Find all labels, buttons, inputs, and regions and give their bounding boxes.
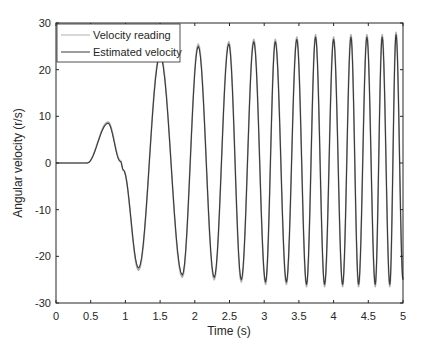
x-tick-label: 4.5 <box>361 310 376 322</box>
y-tick-label: 10 <box>39 110 51 122</box>
series-estimated-velocity <box>56 35 403 285</box>
legend-label-estimated-velocity: Estimated velocity <box>93 46 182 58</box>
x-tick-label: 0 <box>53 310 59 322</box>
line-chart: 00.511.522.533.544.55 3020100-10-20-30 T… <box>0 0 423 355</box>
y-tick-label: -10 <box>35 204 51 216</box>
x-tick-label: 0.5 <box>83 310 98 322</box>
x-tick-label: 2 <box>192 310 198 322</box>
x-tick-label: 4 <box>331 310 337 322</box>
series-velocity-reading <box>56 32 403 286</box>
x-tick-label: 1 <box>122 310 128 322</box>
legend-label-velocity-reading: Velocity reading <box>93 29 171 41</box>
x-tick-label: 1.5 <box>152 310 167 322</box>
y-tick-label: 20 <box>39 64 51 76</box>
y-tick-label: 30 <box>39 17 51 29</box>
x-tick-label: 5 <box>400 310 406 322</box>
legend: Velocity reading Estimated velocity <box>57 24 182 62</box>
y-tick-label: 0 <box>45 157 51 169</box>
y-tick-label: -30 <box>35 297 51 309</box>
y-tick-label: -20 <box>35 250 51 262</box>
x-tick-label: 3 <box>261 310 267 322</box>
series-layer <box>56 32 403 286</box>
plot-area-frame <box>56 23 403 303</box>
x-tick-label: 2.5 <box>222 310 237 322</box>
x-tick-label: 3.5 <box>291 310 306 322</box>
x-axis-label: Time (s) <box>207 324 251 338</box>
y-axis-label: Angular velocity (r/s) <box>11 108 25 217</box>
